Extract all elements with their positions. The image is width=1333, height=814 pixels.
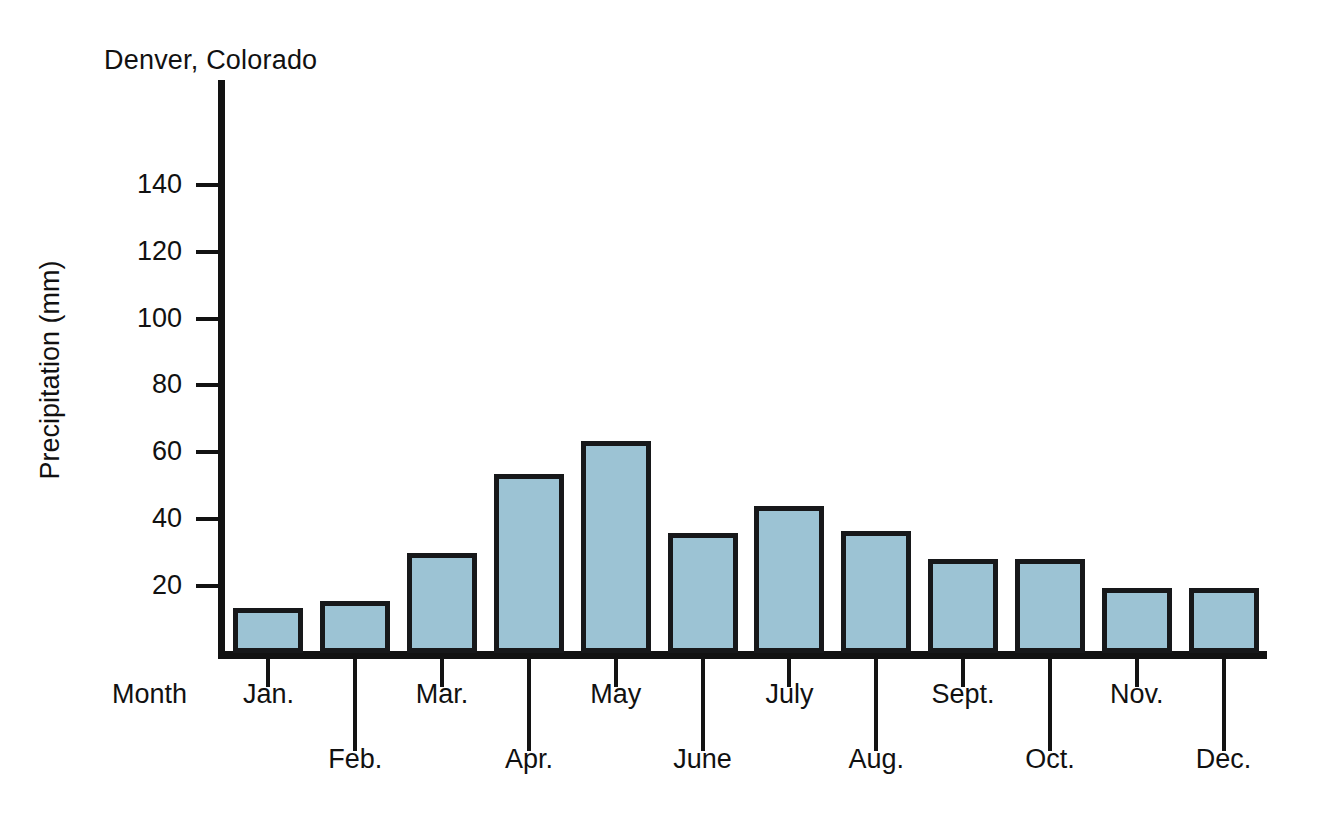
bar-dec xyxy=(1189,588,1259,653)
x-label-june: June xyxy=(623,744,783,774)
x-label-sept: Sept. xyxy=(883,679,1043,709)
x-tick-aug xyxy=(874,659,878,751)
bar-july xyxy=(754,506,824,653)
x-tick-june xyxy=(701,659,705,751)
x-label-aug: Aug. xyxy=(796,744,956,774)
bar-feb xyxy=(320,601,390,653)
bar-mar xyxy=(407,553,477,653)
x-tick-feb xyxy=(353,659,357,751)
bar-nov xyxy=(1102,588,1172,653)
x-tick-dec xyxy=(1222,659,1226,751)
bar-oct xyxy=(1015,559,1085,653)
x-label-mar: Mar. xyxy=(362,679,522,709)
x-label-dec: Dec. xyxy=(1144,744,1304,774)
bar-may xyxy=(581,441,651,653)
x-label-oct: Oct. xyxy=(970,744,1130,774)
x-label-nov: Nov. xyxy=(1057,679,1217,709)
bar-june xyxy=(668,533,738,653)
bar-sept xyxy=(928,559,998,653)
bar-jan xyxy=(233,608,303,653)
x-label-jan: Jan. xyxy=(188,679,348,709)
bar-aug xyxy=(841,531,911,653)
x-label-july: July xyxy=(709,679,869,709)
x-label-apr: Apr. xyxy=(449,744,609,774)
x-label-may: May xyxy=(536,679,696,709)
x-tick-oct xyxy=(1048,659,1052,751)
x-tick-apr xyxy=(527,659,531,751)
x-label-feb: Feb. xyxy=(275,744,435,774)
x-axis-caption: Month xyxy=(112,679,187,709)
precipitation-bar-chart: Denver, Colorado Precipitation (mm) 2040… xyxy=(0,0,1333,814)
bar-apr xyxy=(494,474,564,653)
